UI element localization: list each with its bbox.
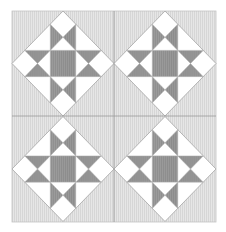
quilt-diagram bbox=[0, 0, 226, 232]
